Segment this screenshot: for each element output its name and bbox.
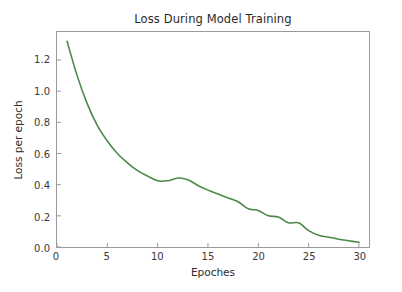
loss-line-path	[67, 41, 359, 242]
chart-title: Loss During Model Training	[56, 12, 370, 26]
y-tick-label: 0.6	[22, 148, 50, 159]
y-axis-label-text: Loss per epoch	[12, 100, 24, 179]
y-tick-label: 0.2	[22, 211, 50, 222]
x-tick-label: 0	[53, 251, 59, 262]
x-tick-label: 10	[151, 251, 164, 262]
y-tick-label: 0.4	[22, 180, 50, 191]
loss-curve	[57, 32, 369, 247]
y-tick-label: 0.8	[22, 117, 50, 128]
y-tick-label: 0.0	[22, 243, 50, 254]
y-tick-label: 1.2	[22, 54, 50, 65]
x-axis-label: Epoches	[56, 266, 370, 278]
x-tick-label: 15	[202, 251, 215, 262]
x-tick-label: 20	[252, 251, 265, 262]
x-tick-label: 30	[353, 251, 366, 262]
plot-area	[56, 31, 370, 248]
x-tick-label: 5	[103, 251, 109, 262]
tick-marks	[57, 60, 359, 247]
x-tick-label: 25	[303, 251, 316, 262]
y-tick-label: 1.0	[22, 85, 50, 96]
loss-chart-figure: Loss During Model Training Loss per epoc…	[0, 0, 402, 292]
